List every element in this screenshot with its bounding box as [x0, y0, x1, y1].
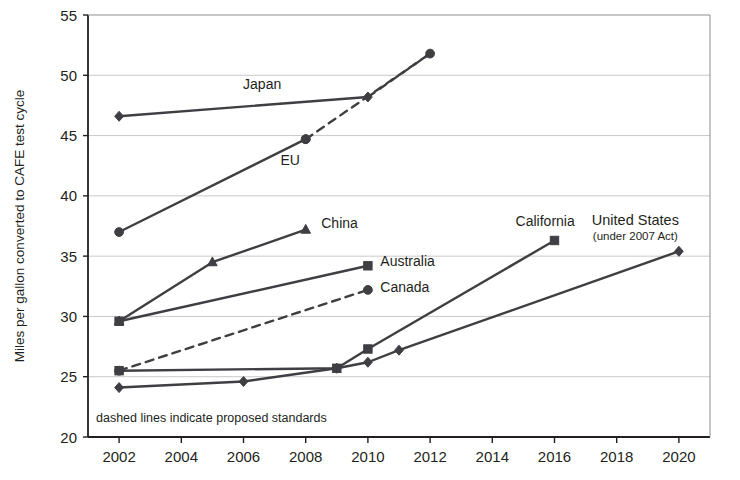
x-tick-label-2018: 2018 [600, 448, 633, 465]
y-tick-label-50: 50 [60, 67, 77, 84]
series-label-eu: EU [280, 152, 299, 168]
x-tick-label-2002: 2002 [102, 448, 135, 465]
data-point-china-2008 [301, 224, 311, 233]
y-tick-label-35: 35 [60, 248, 77, 265]
chart-annotation-note: dashed lines indicate proposed standards [96, 411, 327, 425]
series-line-australia [119, 266, 368, 321]
y-tick-label-25: 25 [60, 368, 77, 385]
x-tick-label-2004: 2004 [165, 448, 198, 465]
series-label-california: California [516, 213, 575, 229]
series-label-canada: Canada [380, 279, 429, 295]
data-point-eu-2002 [115, 228, 124, 237]
x-tick-label-2012: 2012 [413, 448, 446, 465]
y-tick-label-45: 45 [60, 127, 77, 144]
data-point-eu-proposed-2008 [301, 135, 310, 144]
x-tick-label-2006: 2006 [227, 448, 260, 465]
series-label-japan: Japan [243, 76, 281, 92]
data-point-canada-2010 [364, 286, 373, 295]
data-point-united-states-2010 [364, 357, 373, 367]
data-point-australia-2010 [364, 262, 372, 270]
data-point-united-states-2006 [239, 377, 248, 387]
y-tick-label-20: 20 [60, 429, 77, 446]
series-line-united-states [119, 251, 679, 387]
series-label-united-states: United States [592, 212, 679, 228]
series-line-eu-proposed [306, 54, 430, 140]
data-point-australia-2002 [115, 317, 123, 325]
y-tick-label-30: 30 [60, 308, 77, 325]
y-axis-title: Miles per gallon converted to CAFE test … [12, 90, 27, 362]
x-tick-label-2010: 2010 [351, 448, 384, 465]
data-point-united-states-2011 [395, 345, 404, 355]
series-line-canada [119, 290, 368, 371]
series-label-australia: Australia [380, 253, 435, 269]
series-sublabel-united-states: (under 2007 Act) [593, 230, 678, 242]
data-point-united-states-2002 [115, 383, 124, 393]
series-line-china [119, 230, 306, 322]
data-point-eu-proposed-2012 [426, 49, 435, 58]
data-point-japan-2002 [115, 111, 124, 121]
data-point-california-2010 [364, 345, 372, 353]
x-tick-label-2008: 2008 [289, 448, 322, 465]
y-tick-label-40: 40 [60, 187, 77, 204]
mpg-standards-line-chart: 2025303540455055 20022004200620082010201… [0, 0, 740, 480]
series-line-japan [119, 97, 368, 116]
y-axis-ticks: 2025303540455055 [60, 7, 88, 446]
chart-container: 2025303540455055 20022004200620082010201… [0, 0, 740, 480]
series-label-china: China [321, 215, 358, 231]
x-axis-ticks: 2002200420062008201020122014201620182020 [102, 437, 695, 465]
data-point-california-2002 [115, 366, 123, 374]
series-line-eu [119, 139, 306, 232]
x-tick-label-2016: 2016 [538, 448, 571, 465]
y-tick-label-55: 55 [60, 7, 77, 24]
data-point-united-states-2020 [675, 246, 684, 256]
series-labels: JapanEUChinaAustraliaCanadaCaliforniaUni… [243, 76, 679, 296]
x-tick-label-2014: 2014 [476, 448, 509, 465]
x-tick-label-2020: 2020 [662, 448, 695, 465]
data-point-california-2016 [550, 236, 558, 244]
